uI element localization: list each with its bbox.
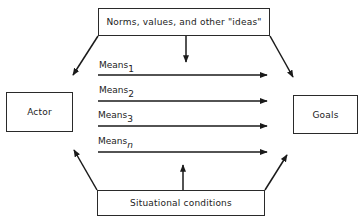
means-3-label: Means3 <box>98 110 133 120</box>
norms-values-ideas-box: Norms, values, and other "ideas" <box>98 8 270 36</box>
situational-to-actor-arrow <box>74 150 97 190</box>
diagram-canvas: Norms, values, and other "ideas" Actor G… <box>0 0 363 222</box>
goals-label: Goals <box>312 110 338 120</box>
norms-to-goals-arrow <box>270 36 293 77</box>
norms-label: Norms, values, and other "ideas" <box>106 17 261 27</box>
situational-label: Situational conditions <box>130 198 232 208</box>
means-2-label: Means2 <box>99 85 134 95</box>
actor-box: Actor <box>6 92 73 132</box>
means-1-label: Means1 <box>99 60 134 70</box>
actor-label: Actor <box>27 107 52 117</box>
goals-box: Goals <box>293 95 358 134</box>
situational-to-goals-arrow <box>265 155 287 190</box>
norms-to-actor-arrow <box>73 36 98 75</box>
situational-conditions-box: Situational conditions <box>97 190 265 216</box>
means-n-label: Meansn <box>98 136 133 146</box>
